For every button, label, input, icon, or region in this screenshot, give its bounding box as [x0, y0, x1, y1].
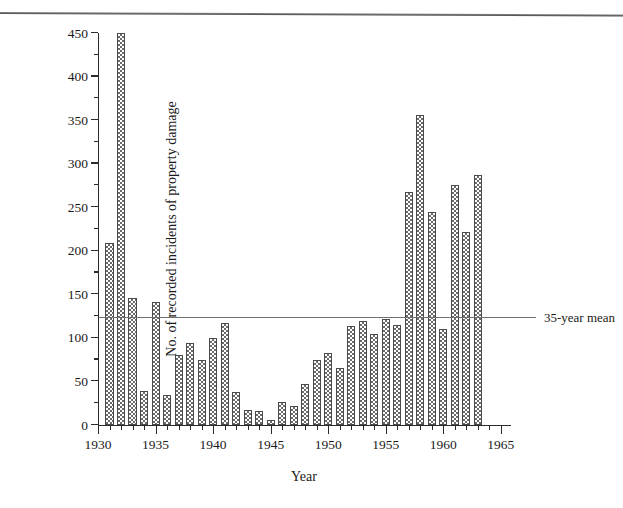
- y-tick-label: 450: [68, 26, 88, 40]
- bar: [359, 321, 367, 425]
- bar: [382, 319, 390, 425]
- bar: [405, 192, 413, 425]
- bar: [175, 355, 183, 425]
- bar: [117, 33, 125, 425]
- y-axis-title: No. of recorded incidents of property da…: [164, 101, 180, 356]
- y-tick-label: 400: [68, 70, 88, 84]
- x-axis-line: [98, 425, 511, 426]
- y-tick-major: [91, 293, 98, 294]
- y-tick-major: [91, 380, 98, 381]
- y-tick-major: [91, 424, 98, 425]
- bar: [462, 232, 470, 425]
- x-tick-major: [213, 425, 214, 434]
- x-tick-major: [328, 425, 329, 434]
- x-tick-label: 1960: [430, 438, 457, 452]
- bar: [336, 368, 344, 425]
- bar: [439, 329, 447, 425]
- bar: [474, 175, 482, 425]
- x-tick-label: 1935: [142, 438, 169, 452]
- y-tick-label: 0: [81, 418, 88, 432]
- bar: [301, 384, 309, 425]
- x-tick-label: 1965: [487, 438, 514, 452]
- bar: [232, 392, 240, 425]
- x-tick-major: [271, 425, 272, 434]
- bar: [347, 326, 355, 425]
- bar: [105, 243, 113, 425]
- y-tick-label: 250: [68, 200, 88, 214]
- plot-area: 050100150200250300350400450 193019351940…: [98, 33, 510, 425]
- bar: [324, 353, 332, 425]
- x-tick-major: [156, 425, 157, 434]
- y-tick-major: [91, 119, 98, 120]
- x-tick-label: 1955: [372, 438, 399, 452]
- bar: [186, 343, 194, 425]
- y-tick-label: 150: [68, 288, 88, 302]
- bar: [428, 212, 436, 425]
- x-tick-major: [443, 425, 444, 434]
- x-tick-label: 1950: [315, 438, 342, 452]
- y-tick-label: 300: [68, 157, 88, 171]
- bar: [152, 302, 160, 425]
- bar: [451, 185, 459, 425]
- bar: [209, 338, 217, 425]
- x-tick-label: 1945: [257, 438, 284, 452]
- bar: [255, 411, 263, 425]
- bar: [221, 323, 229, 425]
- y-tick-label: 50: [75, 375, 89, 389]
- x-tick-major: [386, 425, 387, 434]
- mean-reference-label: 35-year mean: [544, 310, 615, 326]
- x-tick-major: [501, 425, 502, 434]
- page-separator-rule: [0, 12, 623, 16]
- x-tick-label: 1940: [200, 438, 227, 452]
- y-tick-major: [91, 206, 98, 207]
- x-axis-title: Year: [291, 469, 317, 485]
- y-tick-label: 100: [68, 331, 88, 345]
- y-tick-major: [91, 32, 98, 33]
- bar: [393, 325, 401, 425]
- bar: [278, 402, 286, 425]
- bar: [140, 391, 148, 425]
- bar: [370, 334, 378, 425]
- figure-canvas: 050100150200250300350400450 193019351940…: [0, 0, 623, 508]
- bar: [163, 395, 171, 425]
- bar: [416, 115, 424, 425]
- y-tick-label: 200: [68, 244, 88, 258]
- bar: [313, 360, 321, 425]
- y-tick-major: [91, 337, 98, 338]
- y-axis-line: [98, 33, 99, 426]
- y-tick-major: [91, 250, 98, 251]
- y-tick-major: [91, 75, 98, 76]
- y-tick-label: 350: [68, 113, 88, 127]
- bar: [290, 406, 298, 425]
- x-tick-major: [98, 425, 99, 434]
- bar: [244, 410, 252, 425]
- y-tick-major: [91, 162, 98, 163]
- bar: [198, 360, 206, 425]
- x-tick-label: 1930: [85, 438, 112, 452]
